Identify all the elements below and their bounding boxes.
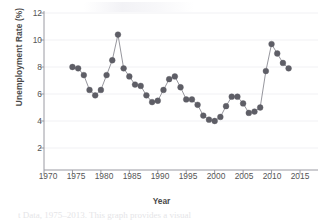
data-point: [172, 74, 178, 80]
y-tick-label-12: 12: [18, 9, 42, 17]
data-point: [149, 99, 155, 105]
data-point: [206, 117, 212, 123]
plot-canvas: [0, 0, 323, 222]
data-point: [126, 74, 132, 80]
data-point: [200, 113, 206, 119]
data-point: [75, 65, 81, 71]
x-tick-label-1990: 1990: [145, 172, 175, 180]
data-point: [257, 105, 263, 111]
data-point: [195, 102, 201, 108]
data-point: [269, 41, 275, 47]
y-tick-label-4: 4: [18, 117, 42, 125]
data-point: [144, 92, 150, 98]
data-point: [81, 72, 87, 78]
data-point: [274, 51, 280, 57]
data-point: [109, 57, 115, 63]
x-tick-label-1980: 1980: [89, 172, 119, 180]
x-tick-label-2000: 2000: [201, 172, 231, 180]
data-point: [166, 76, 172, 82]
data-point: [263, 68, 269, 74]
gridlines-group: [44, 13, 318, 148]
y-tick-label-2: 2: [18, 144, 42, 152]
data-point: [246, 110, 252, 116]
data-point: [286, 65, 292, 71]
x-axis-title: Year: [0, 196, 323, 206]
data-point: [223, 103, 229, 109]
x-tick-label-1975: 1975: [61, 172, 91, 180]
x-tick-label-1985: 1985: [117, 172, 147, 180]
data-point: [98, 87, 104, 93]
data-point: [115, 32, 121, 38]
data-point: [229, 94, 235, 100]
data-point: [178, 84, 184, 90]
data-point: [92, 92, 98, 98]
data-point: [217, 114, 223, 120]
x-tick-label-1995: 1995: [173, 172, 203, 180]
x-tick-label-2015: 2015: [285, 172, 315, 180]
y-tick-label-8: 8: [18, 63, 42, 71]
data-point: [212, 118, 218, 124]
data-point: [252, 109, 258, 115]
chart-figure: Unemployment Rate (%) Year 12 10 8 6 4 2…: [0, 0, 323, 222]
x-tick-label-2010: 2010: [257, 172, 287, 180]
data-point: [87, 87, 93, 93]
data-point: [70, 64, 76, 70]
data-point: [132, 82, 138, 88]
data-point: [189, 97, 195, 103]
x-tick-label-1970: 1970: [33, 172, 63, 180]
data-point: [183, 97, 189, 103]
x-tick-label-2005: 2005: [229, 172, 259, 180]
y-tick-label-10: 10: [18, 36, 42, 44]
series-polyline: [72, 35, 288, 121]
series-points-group: [70, 32, 292, 124]
y-tick-label-6: 6: [18, 90, 42, 98]
series-line-group: [72, 35, 288, 121]
data-point: [161, 87, 167, 93]
cropped-caption-text: t Data, 1975–2013. This graph provides a…: [18, 210, 318, 221]
data-point: [155, 98, 161, 104]
y-axis-title: Unemployment Rate (%): [14, 0, 24, 122]
data-point: [240, 101, 246, 107]
data-point: [280, 60, 286, 66]
data-point: [235, 94, 241, 100]
data-point: [104, 72, 110, 78]
data-point: [138, 83, 144, 89]
data-point: [121, 65, 127, 71]
axis-lines-group: [44, 11, 318, 170]
